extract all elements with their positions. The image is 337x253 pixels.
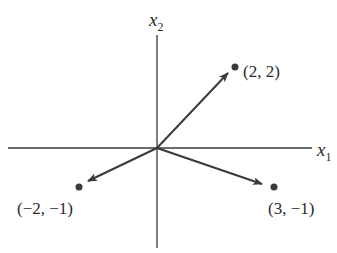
point-label-neg2-neg1: (−2, −1) [17, 200, 73, 217]
point-dot-neg2-neg1 [76, 184, 83, 191]
vector-arrow-2-2 [157, 73, 228, 148]
vertical-axis-label-subscript: 2 [157, 20, 163, 34]
vector-diagram: x2 x1 (2, 2) (3, −1) (−2, −1) [0, 0, 337, 253]
vector-arrow-3-neg1 [157, 148, 262, 184]
horizontal-axis-label: x1 [317, 140, 331, 163]
point-label-3-neg1: (3, −1) [268, 200, 314, 217]
horizontal-axis-label-subscript: 1 [325, 150, 331, 164]
vertical-axis-label: x2 [149, 10, 163, 33]
point-dot-2-2 [232, 64, 239, 71]
point-label-2-2: (2, 2) [243, 63, 280, 80]
point-dot-3-neg1 [271, 184, 278, 191]
vector-arrow-neg2-neg1 [88, 148, 157, 181]
